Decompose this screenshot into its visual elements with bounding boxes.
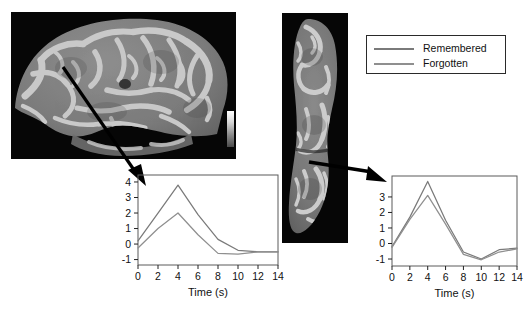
- y-tick-label: -1: [122, 253, 131, 265]
- series-legend: Remembered Forgotten: [366, 35, 506, 74]
- x-tick-label: 2: [407, 271, 413, 283]
- y-tick-label: -1: [376, 253, 385, 265]
- left-timecourse-chart: -10123402468101214Time (s): [108, 168, 288, 280]
- brain-ventral-render: [282, 13, 348, 243]
- y-tick-label: 1: [125, 222, 131, 234]
- x-axis-title: Time (s): [188, 286, 228, 298]
- x-tick-label: 4: [425, 271, 431, 283]
- series-line-remembered: [392, 181, 517, 259]
- activation-colorbar: [227, 111, 234, 147]
- left-chart-svg: -10123402468101214Time (s): [108, 168, 288, 280]
- legend-label-remembered: Remembered: [423, 43, 487, 54]
- right-timecourse-chart: -1012302468101214Time (s): [370, 172, 526, 280]
- legend-swatch-remembered: [374, 48, 414, 50]
- x-tick-label: 10: [475, 271, 487, 283]
- y-tick-label: 1: [379, 222, 385, 234]
- x-tick-label: 14: [272, 270, 284, 282]
- legend-entry-remembered: Remembered: [374, 41, 498, 56]
- x-tick-label: 12: [252, 270, 264, 282]
- series-line-forgotten: [138, 213, 278, 254]
- x-tick-label: 2: [155, 270, 161, 282]
- x-tick-label: 6: [443, 271, 449, 283]
- y-tick-label: 0: [125, 238, 131, 250]
- y-tick-label: 4: [125, 176, 131, 188]
- brain-lateral-image: [11, 12, 236, 159]
- x-tick-label: 8: [461, 271, 467, 283]
- y-tick-label: 3: [379, 191, 385, 203]
- x-axis-title: Time (s): [435, 287, 475, 299]
- y-tick-label: 2: [379, 206, 385, 218]
- x-tick-label: 0: [389, 271, 395, 283]
- y-tick-label: 0: [379, 237, 385, 249]
- figure-canvas: Remembered Forgotten -10123402468101214T…: [0, 0, 526, 334]
- brain-ventral-image: [282, 13, 348, 243]
- x-tick-label: 8: [215, 270, 221, 282]
- x-tick-label: 0: [135, 270, 141, 282]
- right-chart-svg: -1012302468101214Time (s): [370, 172, 526, 280]
- legend-entry-forgotten: Forgotten: [374, 56, 498, 71]
- x-tick-label: 4: [175, 270, 181, 282]
- legend-label-forgotten: Forgotten: [423, 58, 468, 69]
- y-tick-label: 3: [125, 191, 131, 203]
- x-tick-label: 6: [195, 270, 201, 282]
- brain-lateral-render: [11, 12, 236, 159]
- y-tick-label: 2: [125, 207, 131, 219]
- series-line-remembered: [138, 185, 278, 252]
- x-tick-label: 10: [232, 270, 244, 282]
- legend-swatch-forgotten: [374, 63, 414, 65]
- x-tick-label: 12: [493, 271, 505, 283]
- x-tick-label: 14: [511, 271, 523, 283]
- activation-focus-lateral: [119, 79, 131, 89]
